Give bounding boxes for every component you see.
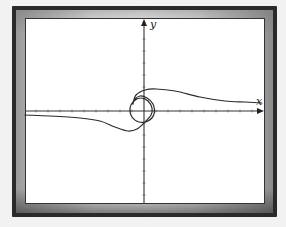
chart-canvas <box>0 0 286 227</box>
x-axis-label: x <box>256 96 262 107</box>
x-axis-arrow-icon <box>257 108 264 114</box>
y-axis-label: y <box>150 19 156 30</box>
y-axis-arrow-icon <box>141 19 147 26</box>
